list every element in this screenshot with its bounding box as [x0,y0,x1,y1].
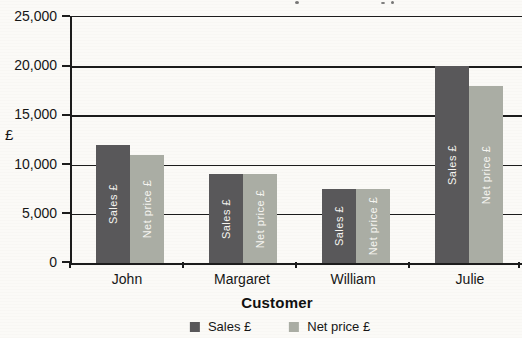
x-label-william: William [330,271,375,287]
x-axis-title: Customer [241,294,313,311]
y-tick-label-20000: 20,000 [0,57,62,73]
bar-net-price-margaret: Net price £ [243,174,277,263]
legend-swatch-sales [190,322,200,332]
y-tick-mark [62,212,70,214]
bar-value-label: Sales £ [435,66,469,263]
y-tick-mark [62,114,70,116]
bar-value-label: Net price £ [356,189,390,263]
bar-sales-john: Sales £ [96,145,130,263]
title-remnant-speck [381,2,385,4]
legend-item-net-price: Net price £ [289,319,370,334]
bar-chart-figure: £ 25,000 20,000 15,000 10,000 5,000 0 Sa… [0,0,522,338]
bar-net-price-william: Net price £ [356,189,390,263]
x-tick-mark [182,262,184,268]
y-tick-mark [62,163,70,165]
y-axis-title: £ [5,126,13,143]
y-tick-mark [62,15,70,17]
y-tick-label-0: 0 [0,254,62,270]
legend-label-net-price: Net price £ [307,319,370,334]
legend: Sales £ Net price £ [190,319,370,334]
title-remnant-speck [391,1,394,4]
bar-value-label: Net price £ [469,86,503,263]
x-tick-mark [518,262,520,268]
legend-swatch-net-price [289,322,299,332]
x-tick-mark [295,262,297,268]
x-tick-mark [408,262,410,268]
y-tick-label-5000: 5,000 [0,205,62,221]
x-tick-mark [69,262,71,268]
legend-label-sales: Sales £ [208,319,251,334]
bar-value-label: Net price £ [243,174,277,263]
bar-value-label: Sales £ [322,189,356,263]
plot-area: Sales £Net price £Sales £Net price £Sale… [70,16,522,265]
x-label-john: John [112,271,142,287]
bar-sales-julie: Sales £ [435,66,469,263]
bar-sales-william: Sales £ [322,189,356,263]
y-tick-label-15000: 15,000 [0,106,62,122]
bar-value-label: Sales £ [96,145,130,263]
bar-net-price-julie: Net price £ [469,86,503,263]
x-label-julie: Julie [456,271,485,287]
bar-sales-margaret: Sales £ [209,174,243,263]
title-remnant-speck [295,1,299,4]
legend-item-sales: Sales £ [190,319,251,334]
y-tick-label-10000: 10,000 [0,156,62,172]
bar-net-price-john: Net price £ [130,155,164,263]
y-tick-mark [62,65,70,67]
x-label-margaret: Margaret [214,271,270,287]
y-tick-label-25000: 25,000 [0,8,62,24]
bar-value-label: Sales £ [209,174,243,263]
bar-value-label: Net price £ [130,155,164,263]
